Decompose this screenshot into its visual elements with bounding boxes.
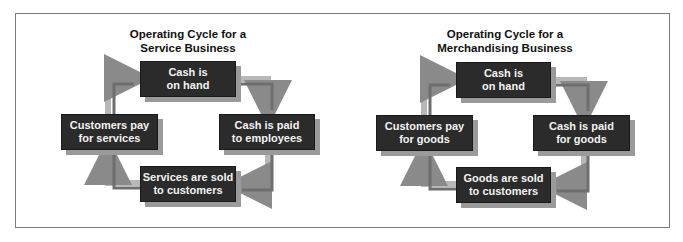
merchandising-cycle-title: Operating Cycle for a Merchandising Busi… [405,27,605,55]
box-customers-pay-services: Customers pay for services [61,114,158,150]
title-line: Service Business [88,41,288,55]
box-text: Customers pay [385,120,464,133]
title-line: Operating Cycle for a [88,27,288,41]
box-text: Cash is paid [235,119,300,132]
title-line: Operating Cycle for a [405,27,605,41]
box-goods-sold: Goods are sold to customers [456,167,551,203]
box-text: to customers [469,185,538,198]
box-text: for goods [556,133,607,146]
box-text: for services [79,132,141,145]
box-text: Customers pay [70,119,149,132]
box-text: Goods are sold [463,172,543,185]
service-cycle-title: Operating Cycle for a Service Business [88,27,288,55]
box-cash-on-hand: Cash is on hand [456,62,551,98]
box-text: on hand [167,79,210,92]
box-text: on hand [482,80,525,93]
box-cash-paid-goods: Cash is paid for goods [533,115,630,151]
box-text: Cash is paid [549,120,614,133]
box-text: Cash is [484,67,523,80]
box-text: to employees [232,132,302,145]
box-text: Cash is [168,66,207,79]
box-text: Services are sold [143,171,234,184]
box-customers-pay-goods: Customers pay for goods [376,115,473,151]
box-services-sold: Services are sold to customers [140,166,236,202]
box-text: to customers [153,184,222,197]
box-cash-paid-employees: Cash is paid to employees [219,114,315,150]
box-text: for goods [399,133,450,146]
box-cash-on-hand: Cash is on hand [140,61,236,97]
title-line: Merchandising Business [405,41,605,55]
